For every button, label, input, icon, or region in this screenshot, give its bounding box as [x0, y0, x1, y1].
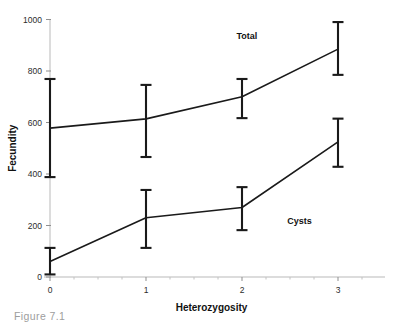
y-axis-tick-label: 600: [28, 118, 42, 128]
y-axis-tick-label: 800: [28, 66, 42, 76]
y-axis-tick-label: 200: [28, 221, 42, 231]
fecundity-heterozygosity-chart: 020040060080010000123 TotalCystsHeterozy…: [0, 0, 398, 325]
y-axis-title: Fecundity: [7, 124, 18, 172]
x-axis-title: Heterozygosity: [176, 302, 248, 313]
figure-caption: Figure 7.1: [14, 310, 65, 322]
x-axis-tick-label: 2: [240, 285, 245, 295]
figure-container: 020040060080010000123 TotalCystsHeterozy…: [0, 0, 398, 325]
y-axis-tick-label: 400: [28, 169, 42, 179]
series-label-total: Total: [236, 31, 257, 41]
x-axis-tick-label: 3: [336, 285, 341, 295]
series-label-cysts: Cysts: [287, 216, 312, 226]
x-axis-tick-label: 1: [144, 285, 149, 295]
x-axis-tick-label: 0: [48, 285, 53, 295]
y-axis-tick-label: 1000: [23, 15, 42, 25]
y-axis-tick-label: 0: [37, 272, 42, 282]
